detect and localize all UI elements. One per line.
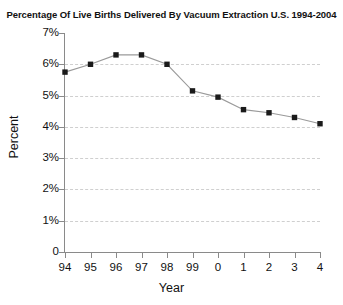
data-point-1 xyxy=(241,107,246,112)
y-tick-label-2%: 2% xyxy=(19,183,59,194)
x-tick-mark xyxy=(244,252,245,258)
data-point-2 xyxy=(266,110,271,115)
data-point-98 xyxy=(164,62,169,67)
x-tick-label-4: 4 xyxy=(305,261,335,273)
x-tick-mark xyxy=(167,252,168,258)
y-tick-label-3%: 3% xyxy=(19,152,59,163)
y-tick-label-4%: 4% xyxy=(19,121,59,132)
x-tick-mark xyxy=(295,252,296,258)
x-tick-mark xyxy=(193,252,194,258)
x-tick-mark xyxy=(91,252,92,258)
data-point-96 xyxy=(113,52,118,57)
x-tick-mark xyxy=(218,252,219,258)
y-tick-label-5%: 5% xyxy=(19,90,59,101)
x-tick-mark xyxy=(269,252,270,258)
data-point-0 xyxy=(215,94,220,99)
data-point-97 xyxy=(139,52,144,57)
data-series-line xyxy=(65,33,320,252)
data-point-95 xyxy=(88,62,93,67)
y-tick-label-0: 0 xyxy=(19,246,59,257)
plot-area xyxy=(65,33,320,252)
x-tick-mark xyxy=(320,252,321,258)
y-tick-label-7%: 7% xyxy=(19,27,59,38)
y-axis-title: Percent xyxy=(7,77,21,197)
y-tick-label-6%: 6% xyxy=(19,58,59,69)
x-tick-mark xyxy=(142,252,143,258)
chart-container: Percentage Of Live Births Delivered By V… xyxy=(0,0,343,305)
data-point-99 xyxy=(190,88,195,93)
data-point-3 xyxy=(292,115,297,120)
data-point-94 xyxy=(62,69,67,74)
x-tick-mark xyxy=(116,252,117,258)
data-point-4 xyxy=(317,121,322,126)
x-tick-mark xyxy=(65,252,66,258)
y-tick-label-1%: 1% xyxy=(19,215,59,226)
x-axis-title: Year xyxy=(0,281,343,295)
